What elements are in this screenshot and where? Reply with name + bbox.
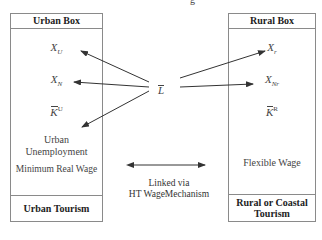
arrow-to-xn [74, 82, 149, 87]
arrow-to-unemployment [82, 91, 149, 127]
arrow-to-xr [180, 51, 265, 78]
link-label: Linked via HT WageMechanism [128, 178, 210, 200]
arrow-to-xnr [180, 84, 253, 87]
arrow-to-xu [81, 51, 149, 82]
